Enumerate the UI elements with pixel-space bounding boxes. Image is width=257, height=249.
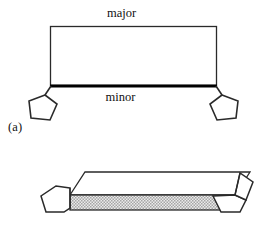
minor-groove-label: minor xyxy=(0,90,257,105)
left-sugar-pentagon-3d xyxy=(41,186,70,212)
panel-b: shading on minor-groove side (b) xyxy=(0,140,257,249)
panel-a-drawing xyxy=(0,0,257,140)
figure-root: major minor (a) xyxy=(0,0,257,249)
panel-b-drawing xyxy=(0,140,257,249)
left-sugar-group-3d xyxy=(41,186,70,212)
panel-a-label: (a) xyxy=(8,120,22,135)
slab-top-face xyxy=(70,172,250,195)
slab-front-face-shaded xyxy=(70,195,235,210)
panel-a: major minor (a) xyxy=(0,0,257,140)
base-pair-rectangle xyxy=(50,27,217,87)
major-groove-label: major xyxy=(0,6,257,21)
